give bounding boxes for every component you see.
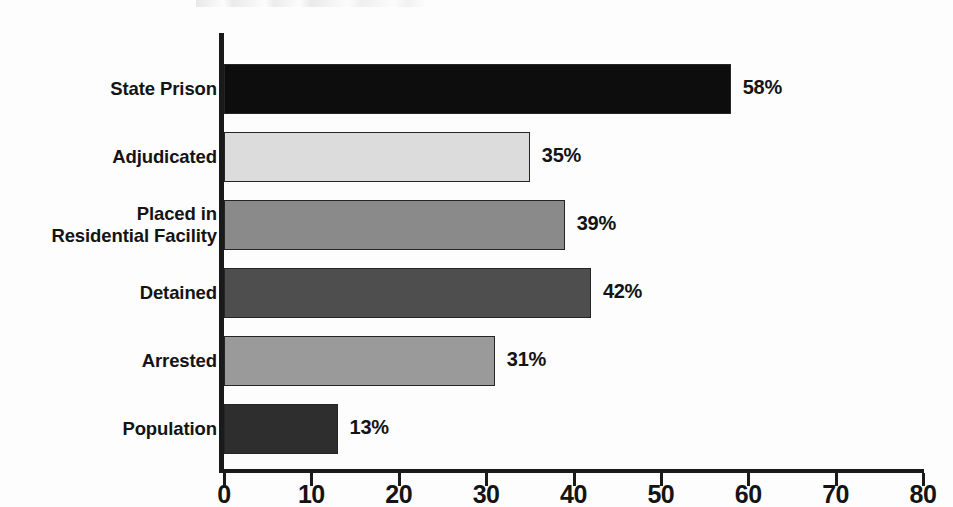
- category-label: Detained: [0, 282, 217, 304]
- bar-chart-plot-area: 01020304050607080 State Prison58%Adjudic…: [0, 0, 953, 507]
- x-axis-tick-label: 80: [888, 480, 953, 507]
- x-axis-tick-label: 10: [276, 480, 346, 507]
- bar-value-label: 31%: [507, 348, 546, 371]
- x-axis-tick-label: 60: [713, 480, 783, 507]
- bar[interactable]: [224, 200, 565, 250]
- bar-value-label: 39%: [577, 212, 616, 235]
- x-axis-tick-label: 50: [626, 480, 696, 507]
- category-label: Arrested: [0, 350, 217, 372]
- x-axis-tick-label: 0: [189, 480, 259, 507]
- bar[interactable]: [224, 64, 731, 114]
- x-axis-tick-label: 40: [539, 480, 609, 507]
- x-axis-tick-label: 70: [801, 480, 871, 507]
- category-label: State Prison: [0, 78, 217, 100]
- bar-value-label: 13%: [350, 416, 389, 439]
- category-label: Placed in Residential Facility: [0, 203, 217, 247]
- bar-value-label: 58%: [743, 76, 782, 99]
- bar-value-label: 42%: [603, 280, 642, 303]
- chart-root: 01020304050607080 State Prison58%Adjudic…: [0, 0, 953, 507]
- category-label: Adjudicated: [0, 146, 217, 168]
- bar[interactable]: [224, 132, 530, 182]
- bar[interactable]: [224, 404, 338, 454]
- bar-value-label: 35%: [542, 144, 581, 167]
- category-label: Population: [0, 418, 217, 440]
- bar[interactable]: [224, 336, 495, 386]
- x-axis-tick-label: 20: [364, 480, 434, 507]
- bar[interactable]: [224, 268, 591, 318]
- x-axis-line: [219, 469, 924, 473]
- x-axis-tick-label: 30: [451, 480, 521, 507]
